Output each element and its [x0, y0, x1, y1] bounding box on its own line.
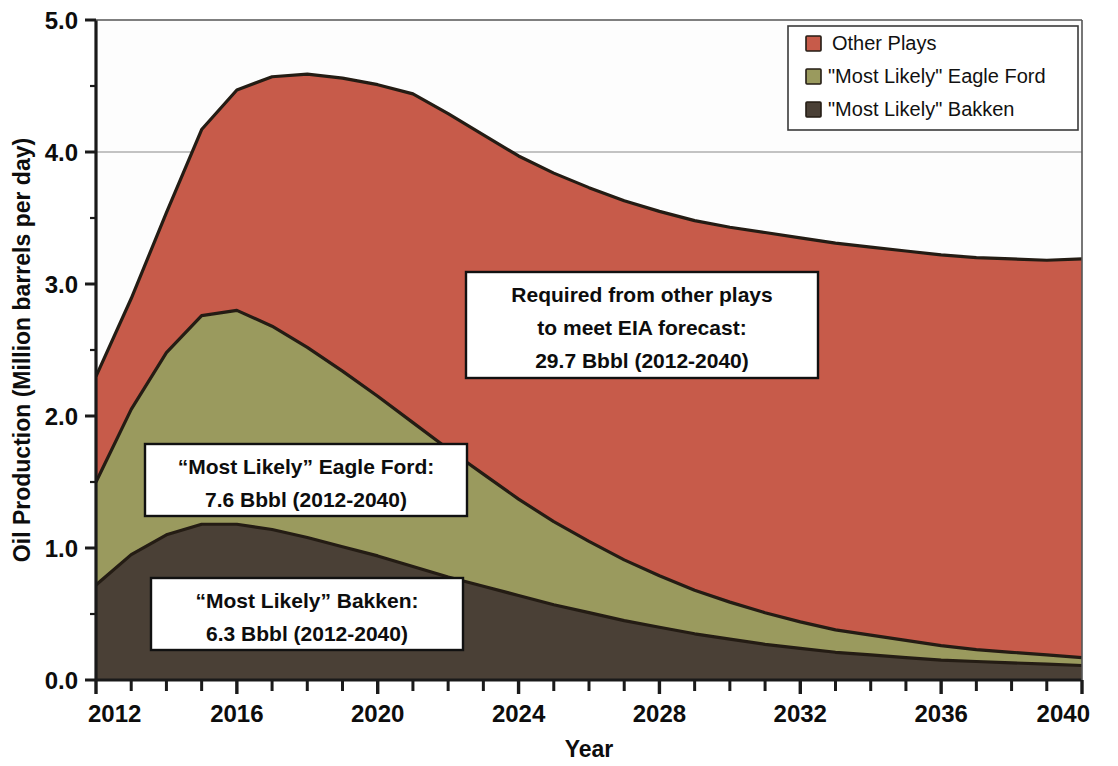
x-tick-label: 2032: [774, 700, 827, 727]
legend: Other Plays "Most Likely" Eagle Ford "Mo…: [788, 26, 1078, 130]
y-tick-label: 0.0: [45, 667, 78, 694]
other-plays-annotation: Required from other plays to meet EIA fo…: [466, 272, 818, 378]
eagle-ford-annotation-line1: “Most Likely” Eagle Ford:: [178, 455, 435, 478]
chart-container: 0.01.02.03.04.05.0 201220162020202420282…: [0, 0, 1118, 766]
y-tick-label: 2.0: [45, 403, 78, 430]
x-axis-title: Year: [565, 736, 614, 762]
x-tick-label: 2016: [210, 700, 263, 727]
bakken-annotation-line2: 6.3 Bbbl (2012-2040): [206, 622, 408, 645]
y-tick-label: 5.0: [45, 7, 78, 34]
eagle-ford-annotation-line2: 7.6 Bbbl (2012-2040): [205, 488, 407, 511]
legend-swatch-eagle-ford: [806, 69, 821, 84]
x-tick-label: 2040: [1037, 700, 1090, 727]
y-tick-label: 1.0: [45, 535, 78, 562]
bakken-annotation: “Most Likely” Bakken: 6.3 Bbbl (2012-204…: [151, 578, 463, 650]
y-tick-label: 3.0: [45, 271, 78, 298]
bakken-annotation-line1: “Most Likely” Bakken:: [196, 589, 419, 612]
x-tick-label: 2020: [351, 700, 404, 727]
stacked-area-chart: 0.01.02.03.04.05.0 201220162020202420282…: [0, 0, 1118, 766]
x-tick-label: 2028: [633, 700, 686, 727]
eagle-ford-annotation: “Most Likely” Eagle Ford: 7.6 Bbbl (2012…: [145, 444, 467, 516]
other-plays-annotation-line2: to meet EIA forecast:: [537, 316, 746, 339]
y-tick-label: 4.0: [45, 139, 78, 166]
x-tick-label: 2036: [914, 700, 967, 727]
x-tick-label: 2024: [492, 700, 546, 727]
x-tick-label: 2012: [88, 700, 141, 727]
other-plays-annotation-line3: 29.7 Bbbl (2012-2040): [535, 349, 749, 372]
legend-label-bakken: "Most Likely" Bakken: [828, 98, 1015, 120]
legend-label-eagle-ford: "Most Likely" Eagle Ford: [828, 65, 1046, 87]
legend-swatch-bakken: [806, 102, 821, 117]
y-axis-title: Oil Production (Million barrels per day): [9, 138, 35, 562]
legend-swatch-other-plays: [806, 36, 821, 51]
other-plays-annotation-line1: Required from other plays: [511, 283, 772, 306]
legend-label-other-plays: Other Plays: [832, 32, 936, 54]
